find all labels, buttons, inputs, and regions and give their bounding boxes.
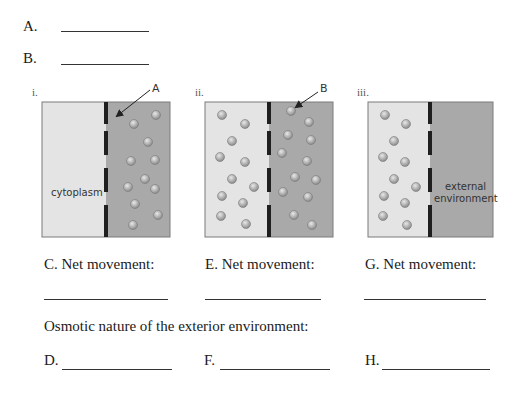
net-movement-g-label: G. Net movement: <box>365 256 476 273</box>
osmotic-d-label: D. <box>44 352 59 369</box>
osmotic-h-blank[interactable] <box>382 369 490 370</box>
diagram-iii <box>368 102 493 237</box>
net-movement-e-blank[interactable] <box>205 299 321 300</box>
external-region <box>269 102 333 237</box>
osmotic-f-label: F. <box>204 352 215 369</box>
osmotic-nature-heading: Osmotic nature of the exterior environme… <box>44 318 309 335</box>
osmotic-h-label: H. <box>365 352 380 369</box>
external-environment-label-line1: external <box>445 181 486 192</box>
osmotic-d-blank[interactable] <box>62 369 172 370</box>
cytoplasm-label: cytoplasm <box>51 187 103 198</box>
cytoplasm-region <box>42 102 106 237</box>
cytoplasm-region <box>368 102 430 237</box>
membrane <box>104 102 108 237</box>
net-movement-c-label: C. Net movement: <box>44 256 154 273</box>
pointer-label-a: A <box>152 82 160 95</box>
membrane <box>428 102 432 237</box>
osmosis-diagrams <box>0 0 529 260</box>
net-movement-e-label: E. Net movement: <box>205 256 315 273</box>
external-region <box>430 102 493 237</box>
pointer-label-b: B <box>320 82 328 95</box>
net-movement-g-blank[interactable] <box>364 299 486 300</box>
diagram-ii <box>205 92 333 237</box>
net-movement-c-blank[interactable] <box>44 299 168 300</box>
external-environment-label-line2: environment <box>434 193 498 204</box>
diagram-i <box>42 90 170 237</box>
membrane <box>267 102 271 237</box>
osmotic-f-blank[interactable] <box>220 369 330 370</box>
cytoplasm-region <box>205 102 269 237</box>
